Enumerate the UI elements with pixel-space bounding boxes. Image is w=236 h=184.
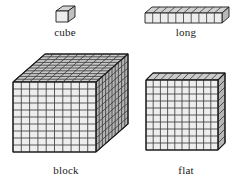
block-drawing (10, 52, 134, 158)
hundred-flat-icon (144, 70, 228, 154)
cube-faces (56, 6, 75, 22)
caption-cube: cube (34, 26, 96, 38)
cube-front-face (56, 11, 68, 22)
long-drawing (143, 4, 233, 28)
unit-cube-icon (55, 5, 81, 27)
caption-long: long (150, 26, 222, 38)
caption-flat: flat (152, 164, 220, 176)
flat-drawing (144, 70, 228, 154)
unit-cube-drawing (55, 5, 81, 27)
rod-of-ten-icon (143, 4, 233, 28)
thousand-cube-icon (10, 52, 134, 158)
caption-block: block (30, 164, 102, 176)
base-ten-blocks-figure: cube (0, 0, 236, 184)
